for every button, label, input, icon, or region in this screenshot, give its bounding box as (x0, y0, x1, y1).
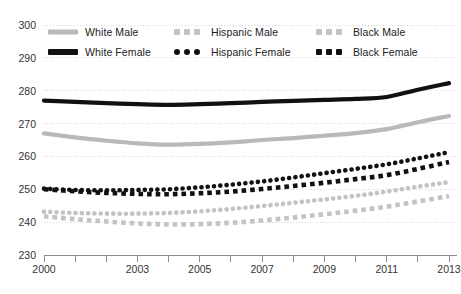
x-tick-label: 2011 (375, 263, 398, 275)
y-tick-label: 230 (2, 250, 36, 261)
legend-item-hispanic-male[interactable]: Hispanic Male (174, 22, 316, 42)
legend-item-hispanic-female[interactable]: Hispanic Female (174, 42, 316, 62)
x-tick-label: 2000 (32, 263, 55, 275)
x-tick-label: 2003 (126, 263, 149, 275)
legend-label-white-female: White Female (85, 46, 151, 58)
legend-label-black-male: Black Male (353, 26, 405, 38)
x-tick-label: 2005 (188, 263, 211, 275)
y-tick-label: 250 (2, 184, 36, 195)
legend-item-black-male[interactable]: Black Male (316, 22, 448, 42)
chart-x-axis-labels: 2000200320052007200920112013 (0, 263, 461, 279)
legend-item-white-male[interactable]: White Male (48, 22, 174, 42)
chart-x-tick-marks (44, 255, 449, 262)
legend-label-white-male: White Male (85, 26, 139, 38)
legend-label-hispanic-female: Hispanic Female (211, 46, 291, 58)
legend-swatch-white-male (48, 27, 78, 37)
y-tick-label: 270 (2, 118, 36, 129)
legend-label-hispanic-male: Hispanic Male (211, 26, 278, 38)
y-tick-label: 280 (2, 85, 36, 96)
series-line-hispanic-male (44, 182, 449, 214)
y-tick-label: 290 (2, 52, 36, 63)
x-tick-label: 2009 (313, 263, 336, 275)
series-line-white-male (44, 116, 449, 145)
legend-item-white-female[interactable]: White Female (48, 42, 174, 62)
series-line-hispanic-female (44, 152, 449, 190)
series-line-black-male (44, 196, 449, 224)
legend-swatch-black-female (316, 47, 346, 57)
legend-swatch-black-male (316, 27, 346, 37)
y-tick-label: 260 (2, 151, 36, 162)
chart-legend: White Male Hispanic Male Black Male Whit… (48, 22, 448, 62)
line-chart: White Male Hispanic Male Black Male Whit… (0, 0, 461, 294)
legend-label-black-female: Black Female (353, 46, 418, 58)
chart-series-layer (44, 83, 449, 224)
series-line-white-female (44, 83, 449, 105)
legend-swatch-hispanic-female (174, 47, 204, 57)
legend-item-black-female[interactable]: Black Female (316, 42, 448, 62)
x-tick-label: 2013 (437, 263, 460, 275)
x-tick-label: 2007 (250, 263, 273, 275)
legend-swatch-white-female (48, 47, 78, 57)
chart-y-axis-labels: 230240250260270280290300 (0, 0, 36, 294)
legend-swatch-hispanic-male (174, 27, 204, 37)
y-tick-label: 240 (2, 217, 36, 228)
y-tick-label: 300 (2, 20, 36, 31)
